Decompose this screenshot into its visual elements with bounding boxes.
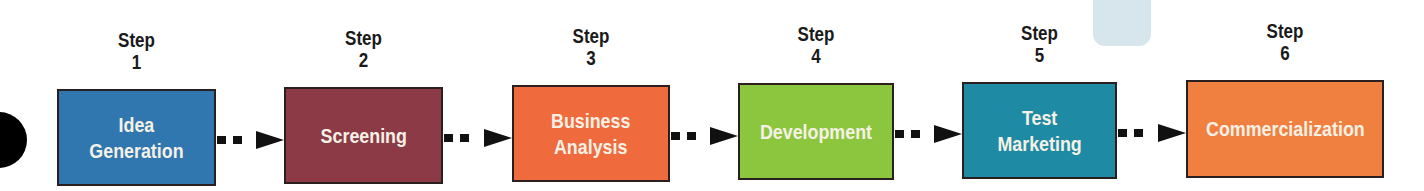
step-heading-1: Step1 (69, 29, 204, 73)
arrowhead-icon (710, 127, 738, 145)
arrowhead-icon (256, 131, 284, 149)
arrow-dash (1118, 129, 1127, 137)
step-number: 4 (750, 45, 883, 67)
step-box-1: Idea Generation (57, 89, 216, 186)
step-box-label: Business Analysis (551, 108, 630, 160)
step-box-label: Test Marketing (997, 105, 1081, 157)
arrow-dash (1134, 129, 1143, 137)
dashed-arrow-connector (1117, 126, 1186, 140)
dashed-arrow-connector (670, 129, 738, 143)
arrow-dash (911, 130, 920, 138)
arrow-dash (233, 136, 242, 144)
arrowhead-icon (1158, 124, 1186, 142)
black-circle-marker (0, 112, 27, 168)
step-word: Step (524, 25, 658, 47)
dashed-arrow-connector (443, 131, 512, 145)
step-word: Step (1201, 20, 1369, 42)
step-number: 5 (974, 44, 1106, 66)
step-box-label: Development (760, 119, 872, 145)
step-heading-2: Step2 (296, 27, 431, 71)
step-heading-3: Step3 (524, 25, 658, 69)
step-box-6: Commercialization (1186, 80, 1384, 178)
arrow-dash (444, 134, 453, 142)
step-box-label: Screening (320, 123, 406, 149)
step-number: 3 (524, 47, 658, 69)
step-heading-4: Step4 (750, 23, 883, 67)
arrow-dash (671, 132, 680, 140)
step-word: Step (974, 22, 1106, 44)
step-heading-5: Step5 (974, 22, 1106, 66)
step-number: 6 (1201, 42, 1369, 64)
step-heading-6: Step6 (1201, 20, 1369, 64)
step-box-4: Development (738, 83, 894, 180)
arrow-dash (687, 132, 696, 140)
arrowhead-icon (934, 125, 962, 143)
step-box-2: Screening (284, 87, 443, 184)
step-box-5: Test Marketing (962, 82, 1117, 179)
step-box-3: Business Analysis (512, 85, 670, 182)
step-number: 1 (69, 51, 204, 73)
step-word: Step (750, 23, 883, 45)
dashed-arrow-connector (894, 127, 962, 141)
arrow-dash (460, 134, 469, 142)
arrow-dash (895, 130, 904, 138)
arrow-dash (217, 136, 226, 144)
step-word: Step (296, 27, 431, 49)
step-word: Step (69, 29, 204, 51)
step-number: 2 (296, 49, 431, 71)
dashed-arrow-connector (216, 133, 284, 147)
step-box-label: Idea Generation (89, 112, 183, 164)
step-box-label: Commercialization (1206, 116, 1365, 142)
arrowhead-icon (484, 129, 512, 147)
